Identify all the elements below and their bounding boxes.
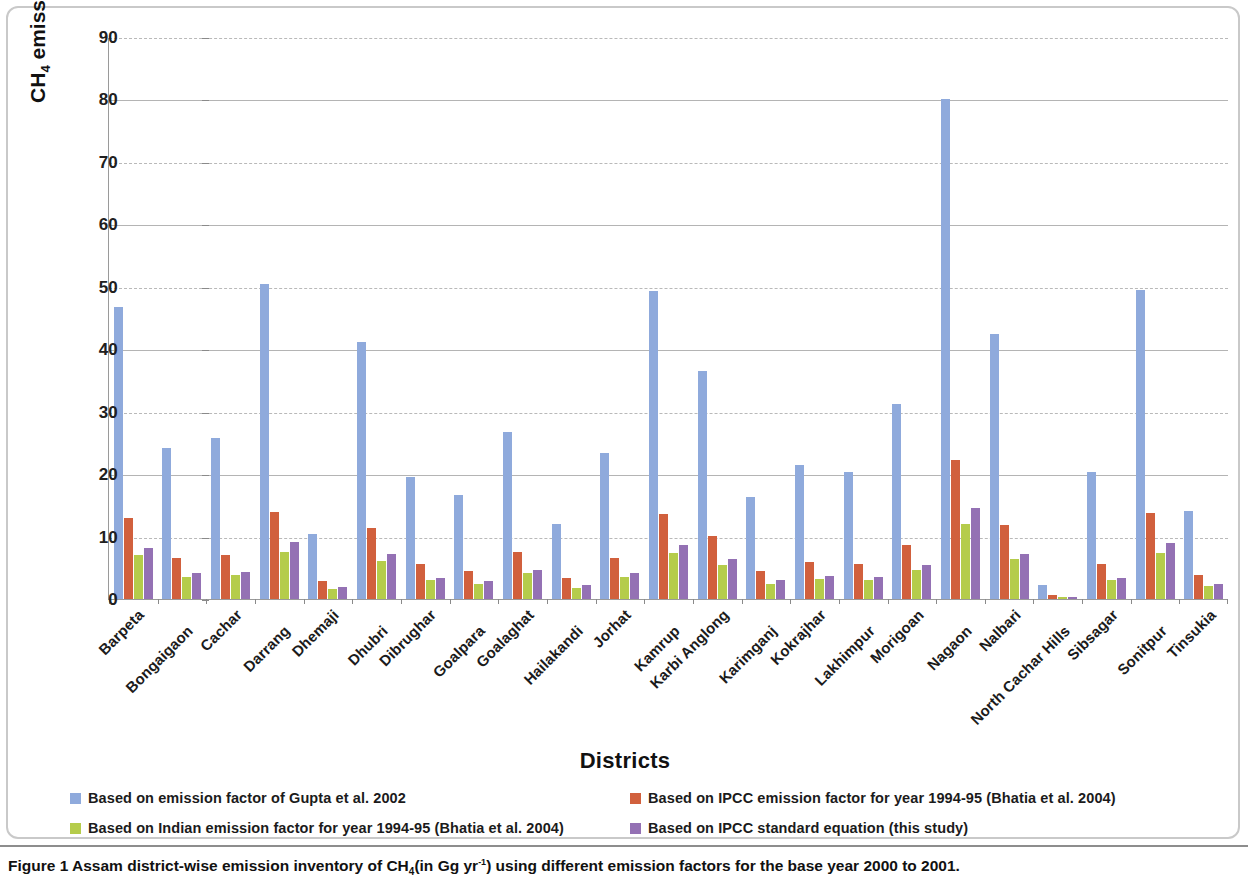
bar [523, 573, 532, 599]
bar [1010, 559, 1019, 599]
legend-label: Based on IPCC emission factor for year 1… [648, 790, 1116, 806]
bar-group [255, 38, 304, 599]
bar [990, 334, 999, 599]
bar [454, 495, 463, 599]
x-axis-title: Districts [8, 748, 1242, 774]
bar-group [888, 38, 937, 599]
bar [922, 565, 931, 599]
bar [1087, 472, 1096, 599]
bar-groups [109, 38, 1228, 599]
y-axis-tick-mark [202, 288, 209, 289]
bar-group [547, 38, 596, 599]
y-axis-tick-label: 70 [58, 153, 118, 173]
bar [144, 548, 153, 599]
legend-item: Based on IPCC emission factor for year 1… [630, 790, 1220, 806]
bar [474, 584, 483, 599]
bar [308, 534, 317, 599]
bar [1117, 578, 1126, 599]
bar [630, 573, 639, 599]
legend-swatch [70, 823, 81, 834]
caption-label: Figure 1 [8, 857, 68, 874]
x-axis-label-slot: Dhemaji [303, 600, 352, 720]
bar [961, 524, 970, 599]
bar [1194, 575, 1203, 599]
bar-group [596, 38, 645, 599]
bar-group [985, 38, 1034, 599]
bar [552, 524, 561, 599]
bar-group [206, 38, 255, 599]
x-axis-label-slot: Sonitpur [1131, 600, 1180, 720]
bar [582, 585, 591, 599]
bar [746, 497, 755, 599]
y-axis-tick-mark [202, 413, 209, 414]
bar-group [644, 38, 693, 599]
bar [406, 477, 415, 599]
bar [162, 448, 171, 599]
bar [864, 580, 873, 599]
bar [503, 432, 512, 599]
bar [124, 518, 133, 599]
bar [728, 559, 737, 599]
bar [426, 580, 435, 599]
bar [290, 542, 299, 599]
bar-group [450, 38, 499, 599]
bar [844, 472, 853, 599]
bar [776, 580, 785, 599]
bar [377, 561, 386, 599]
bar-group [839, 38, 888, 599]
bar-group [790, 38, 839, 599]
x-axis-label-slot: Hailakandi [546, 600, 595, 720]
bar [1204, 586, 1213, 599]
bar [328, 589, 337, 599]
bar-group [352, 38, 401, 599]
x-axis-label-slot: Darrang [254, 600, 303, 720]
plot-area: 0102030405060708090 [108, 38, 1228, 600]
y-axis-tick-mark [202, 350, 209, 351]
bar [971, 508, 980, 599]
bar [172, 558, 181, 599]
bar [260, 284, 269, 599]
y-axis-tick-label: 20 [58, 465, 118, 485]
bar-group [498, 38, 547, 599]
bar [620, 577, 629, 599]
bar [1038, 585, 1047, 599]
x-axis-label-slot: Bongaigaon [157, 600, 206, 720]
y-axis-tick-mark [202, 163, 209, 164]
legend-label: Based on IPCC standard equation (this st… [648, 820, 968, 836]
bar [718, 565, 727, 599]
bar [416, 564, 425, 599]
bar [562, 578, 571, 599]
bar [1166, 543, 1175, 599]
bar [270, 512, 279, 599]
bar [367, 528, 376, 599]
bar [1000, 525, 1009, 599]
bar [805, 562, 814, 599]
bar-group [158, 38, 207, 599]
bar [610, 558, 619, 599]
figure-frame: CH4 emission (Gg yr-1) 01020304050607080… [6, 6, 1240, 839]
bar [513, 552, 522, 599]
bar [1156, 553, 1165, 599]
bar [1097, 564, 1106, 599]
bar [892, 404, 901, 599]
bar [357, 342, 366, 599]
x-axis-label: Barpeta [95, 606, 147, 658]
bar [902, 545, 911, 599]
bar-group [693, 38, 742, 599]
bar [484, 581, 493, 599]
bar-group [304, 38, 353, 599]
bar [708, 536, 717, 599]
bar [659, 514, 668, 599]
bar [679, 545, 688, 599]
bar-group [1033, 38, 1082, 599]
bar [698, 371, 707, 599]
x-axis-label: Jorhat [589, 606, 634, 651]
bar [464, 571, 473, 599]
bar [815, 579, 824, 599]
bar-group [109, 38, 158, 599]
bar [241, 572, 250, 599]
legend-label: Based on emission factor of Gupta et al.… [88, 790, 406, 806]
x-axis-labels: BarpetaBongaigaonCacharDarrangDhemajiDhu… [108, 600, 1228, 720]
bar [1058, 597, 1067, 599]
bar [951, 460, 960, 599]
